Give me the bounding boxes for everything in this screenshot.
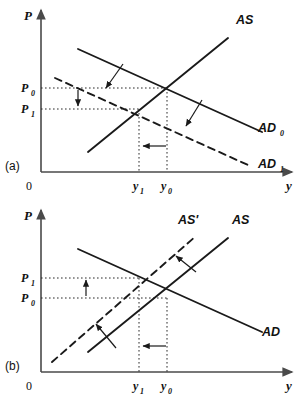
curve-label-ad0-a: AD 0 xyxy=(257,121,284,138)
tick-label-y1-sub-b: 1 xyxy=(140,387,144,396)
annotation-as-shift-upper-b xyxy=(176,256,196,272)
tick-label-p1-b: P 1 xyxy=(21,271,35,288)
x-axis-label-b: y xyxy=(284,378,292,393)
curve-label-as-b: AS xyxy=(231,213,250,227)
panel-b-plot: P y 0 (b) AS' AS AD P 1 P 0 y 1 y xyxy=(0,200,307,401)
curve-label-as-prime-b: AS' xyxy=(177,213,199,227)
curve-label-as-a: AS xyxy=(235,13,254,27)
panel-b: P y 0 (b) AS' AS AD P 1 P 0 y 1 y xyxy=(0,200,307,400)
panel-a-plot: P y 0 (a) AS AD 0 AD 1 P 0 P 1 xyxy=(0,0,307,200)
y-axis-label-a: P xyxy=(24,8,33,23)
curve-label-ad1-sub-a: 1 xyxy=(280,165,284,174)
tick-label-y0-b: y 0 xyxy=(159,379,172,396)
tick-label-p0-sub-b: 0 xyxy=(31,299,35,308)
curve-label-ad-b: AD xyxy=(261,325,280,339)
x-axis-label-a: y xyxy=(284,178,292,193)
tick-label-y1-a: y 1 xyxy=(131,179,144,196)
tick-label-p0-text-b: P xyxy=(21,291,29,305)
panel-a: P y 0 (a) AS AD 0 AD 1 P 0 P 1 xyxy=(0,0,307,200)
tick-label-y0-sub-a: 0 xyxy=(168,187,172,196)
y-axis-label-b: P xyxy=(24,208,33,223)
tick-label-p0-b: P 0 xyxy=(21,291,35,308)
tick-label-p0-a: P 0 xyxy=(21,81,35,98)
origin-label-a: 0 xyxy=(26,179,32,193)
annotation-as-shift-lower-b xyxy=(96,324,116,348)
curve-ad1-a xyxy=(55,78,248,165)
tick-label-p0-sub-a: 0 xyxy=(31,89,35,98)
tick-label-p1-sub-a: 1 xyxy=(31,110,35,119)
curve-label-ad1-text-a: AD xyxy=(257,157,276,171)
tick-label-p1-a: P 1 xyxy=(21,102,35,119)
tick-label-p0-text-a: P xyxy=(21,81,29,95)
tick-label-p1-text-a: P xyxy=(21,102,29,116)
tick-label-y0-text-a: y xyxy=(159,179,167,193)
tick-label-y1-sub-a: 1 xyxy=(140,187,144,196)
tick-label-y0-sub-b: 0 xyxy=(168,387,172,396)
tick-label-y1-b: y 1 xyxy=(131,379,144,396)
tick-label-y1-text-b: y xyxy=(131,379,139,393)
curve-label-ad0-text-a: AD xyxy=(257,121,276,135)
curve-as-b xyxy=(88,238,228,352)
tick-label-y0-text-b: y xyxy=(159,379,167,393)
curve-ad0-a xyxy=(78,49,262,132)
curve-ad-b xyxy=(78,249,262,332)
curve-label-ad0-sub-a: 0 xyxy=(280,129,284,138)
curve-as-a xyxy=(88,38,228,152)
origin-label-b: 0 xyxy=(26,379,32,393)
annotation-ad-shift-lower-a xyxy=(186,100,202,126)
panel-label-a: (a) xyxy=(5,159,20,173)
annotation-ad-shift-upper-a xyxy=(106,64,123,88)
tick-label-y0-a: y 0 xyxy=(159,179,172,196)
tick-label-p1-text-b: P xyxy=(21,271,29,285)
tick-label-p1-sub-b: 1 xyxy=(31,279,35,288)
curve-as-prime-b xyxy=(52,236,196,362)
panel-label-b: (b) xyxy=(5,359,20,373)
tick-label-y1-text-a: y xyxy=(131,179,139,193)
figure-as-ad-diagram: P y 0 (a) AS AD 0 AD 1 P 0 P 1 xyxy=(0,0,307,401)
